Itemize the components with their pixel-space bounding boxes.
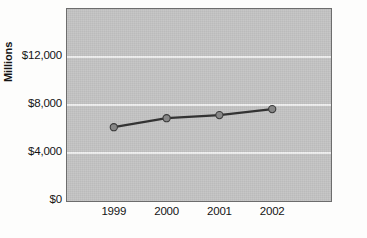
plot-area <box>66 8 332 202</box>
x-axis-tick-label: 2001 <box>189 205 249 217</box>
x-axis-tick-labels: 1999200020012002 <box>66 205 332 227</box>
data-point-marker <box>269 106 276 113</box>
x-axis-tick-label: 1999 <box>84 205 144 217</box>
data-point-marker <box>216 112 223 119</box>
y-axis-tick-label: $4,000 <box>0 145 62 157</box>
x-axis-tick-label: 2000 <box>137 205 197 217</box>
data-point-marker <box>110 124 117 131</box>
series-markers <box>110 106 276 131</box>
line-chart-figure: Millions $0$4,000$8,000$12,000 199920002… <box>0 0 367 238</box>
y-axis-tick-label: $12,000 <box>0 49 62 61</box>
series-line-millions <box>67 9 331 201</box>
x-axis-tick-label: 2002 <box>242 205 302 217</box>
y-axis-tick-label: $0 <box>0 193 62 205</box>
y-axis-tick-labels: $0$4,000$8,000$12,000 <box>0 0 62 238</box>
data-point-marker <box>163 115 170 122</box>
y-axis-tick-label: $8,000 <box>0 97 62 109</box>
series-polyline <box>114 109 272 127</box>
